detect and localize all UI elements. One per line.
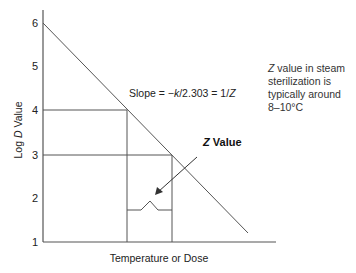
z-value-note: Z value in steam sterilization is typica… — [268, 62, 356, 114]
y-tick-6: 6 — [32, 17, 38, 29]
d-value-diagram: 6 5 4 3 2 1 Slope = −k/2.303 = 1/Z Z Val… — [0, 0, 356, 273]
slope-annotation: Slope = −k/2.303 = 1/Z — [129, 87, 236, 99]
z-bracket — [127, 201, 172, 210]
y-tick-2: 2 — [32, 192, 38, 204]
y-axis-label: Log D Value — [12, 101, 24, 158]
y-tick-1: 1 — [32, 236, 38, 248]
note-line-2: sterilization is — [268, 75, 356, 88]
note-line-3: typically around — [268, 88, 356, 101]
log-d-line — [43, 23, 248, 233]
x-axis-label: Temperature or Dose — [110, 252, 209, 264]
y-tick-3: 3 — [32, 149, 38, 161]
note-line-4: 8–10°C — [268, 101, 356, 114]
y-tick-4: 4 — [32, 104, 38, 116]
z-value-label: Z Value — [202, 136, 242, 148]
y-tick-5: 5 — [32, 60, 38, 72]
note-line-1: value in steam — [274, 62, 345, 74]
